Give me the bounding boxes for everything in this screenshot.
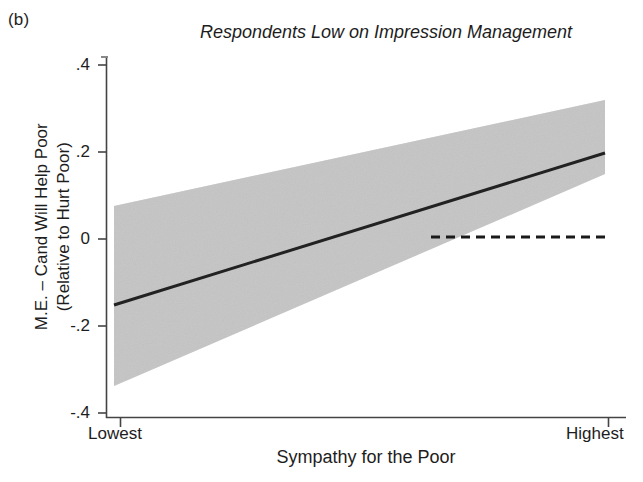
y-tick-label-4: -.4 [50,403,90,423]
plot-area [0,0,643,482]
confidence-band [114,100,605,386]
y-axis-title-line-1: M.E. – Cand Will Help Poor [31,62,53,392]
x-tick-label-lowest: Lowest [88,424,142,444]
y-axis-title: M.E. – Cand Will Help Poor (Relative to … [31,62,75,392]
y-axis-title-line-2: (Relative to Hurt Poor) [53,62,75,392]
x-axis-title: Sympathy for the Poor [106,447,626,468]
y-axis-ticks [98,65,106,413]
x-axis-ticks [121,418,609,427]
x-tick-label-highest: Highest [566,424,624,444]
chart-figure: (b) Respondents Low on Impression Manage… [0,0,643,482]
